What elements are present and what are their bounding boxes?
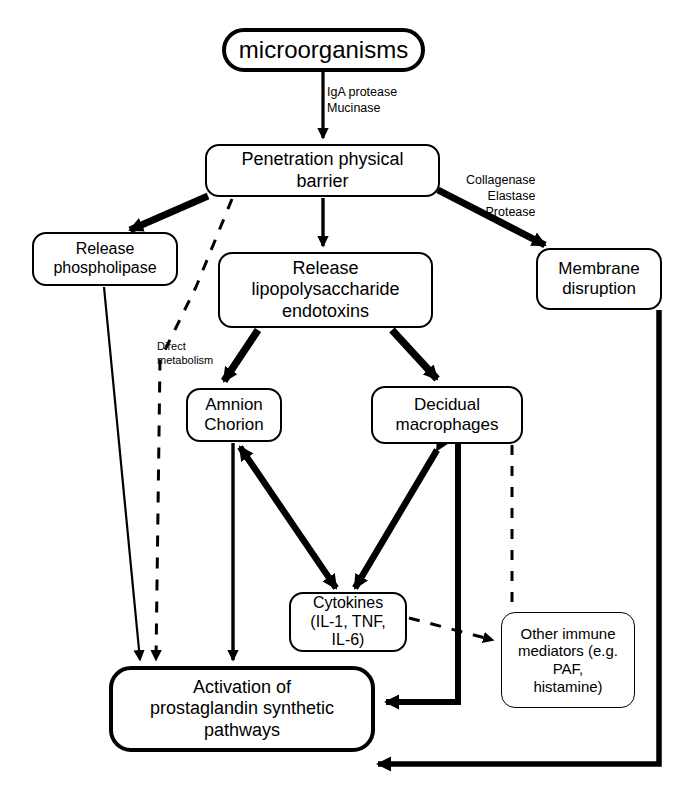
- node-release-phospholipase[interactable]: Release phospholipase: [32, 232, 178, 286]
- node-endotoxins-label: Release lipopolysaccharide endotoxins: [245, 258, 405, 322]
- node-amnion-chorion[interactable]: Amnion Chorion: [186, 388, 282, 442]
- node-activation-label: Activation of prostaglandin synthetic pa…: [144, 677, 340, 741]
- edge-label-iga-protease: IgA protease Mucinase: [327, 84, 397, 116]
- node-decidual-macrophages[interactable]: Decidual macrophages: [371, 386, 523, 444]
- node-membrane-label: Membrane disruption: [552, 259, 645, 299]
- edge-phospholipase-to-activation: [104, 287, 140, 660]
- node-decidual-label: Decidual macrophages: [389, 395, 504, 435]
- node-cytokines-label: Cytokines (IL-1, TNF, IL-6): [304, 594, 391, 651]
- node-membrane-disruption[interactable]: Membrane disruption: [536, 248, 662, 310]
- edge-cytokines-to-other-mediators-dashed: [409, 618, 493, 640]
- node-microorganisms-label: microorganisms: [233, 36, 414, 64]
- node-microorganisms[interactable]: microorganisms: [222, 28, 425, 72]
- edge-amnion-cytokines-bidirectional: [240, 447, 336, 588]
- node-other-immune-mediators[interactable]: Other immune mediators (e.g. PAF, histam…: [501, 612, 635, 708]
- edge-endotoxins-to-amnion: [224, 330, 258, 381]
- node-phospholipase-label: Release phospholipase: [47, 240, 162, 278]
- node-penetration-physical-barrier[interactable]: Penetration physical barrier: [205, 144, 440, 197]
- node-activation-prostaglandin-pathways[interactable]: Activation of prostaglandin synthetic pa…: [109, 666, 375, 752]
- edge-penetration-to-phospholipase: [130, 196, 208, 230]
- edge-decidual-to-activation: [386, 444, 458, 702]
- edge-decidual-cytokines-bidirectional: [355, 450, 437, 588]
- edge-label-collagenase: Collagenase Elastase Protease: [466, 172, 536, 220]
- node-amnion-label: Amnion Chorion: [198, 395, 270, 435]
- node-penetration-label: Penetration physical barrier: [235, 149, 409, 191]
- edge-label-direct-metabolism: Direct metabolism: [157, 340, 213, 368]
- edge-endotoxins-to-decidual: [392, 330, 437, 379]
- diagram-canvas: microorganisms Penetration physical barr…: [0, 0, 692, 791]
- node-cytokines[interactable]: Cytokines (IL-1, TNF, IL-6): [289, 592, 407, 652]
- node-release-lipopolysaccharide-endotoxins[interactable]: Release lipopolysaccharide endotoxins: [218, 252, 433, 328]
- node-other-mediators-label: Other immune mediators (e.g. PAF, histam…: [512, 625, 624, 696]
